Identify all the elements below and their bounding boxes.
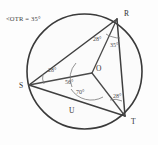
point-label-r: R <box>124 9 129 18</box>
geometry-figure: R S T O U 28° 35° 28° 56° 70° 28° <OTR =… <box>0 0 158 145</box>
angle-label-t-otr: 28° <box>113 93 122 99</box>
angle-label-r-sro: 28° <box>93 36 102 42</box>
angle-label-r-ort: 35° <box>110 42 119 48</box>
point-label-t: T <box>131 117 136 126</box>
region-label-u: U <box>69 106 75 115</box>
angle-label-o-sot: 70° <box>76 89 85 95</box>
point-label-s: S <box>19 81 23 90</box>
diagram-canvas: R S T O U 28° 35° 28° 56° 70° 28° <OTR =… <box>0 0 158 145</box>
angle-label-o-sor: 56° <box>65 79 74 85</box>
angle-label-s-rso: 28° <box>48 67 57 73</box>
point-label-o: O <box>96 64 102 73</box>
given-angle-caption: <OTR = 35° <box>6 15 41 22</box>
